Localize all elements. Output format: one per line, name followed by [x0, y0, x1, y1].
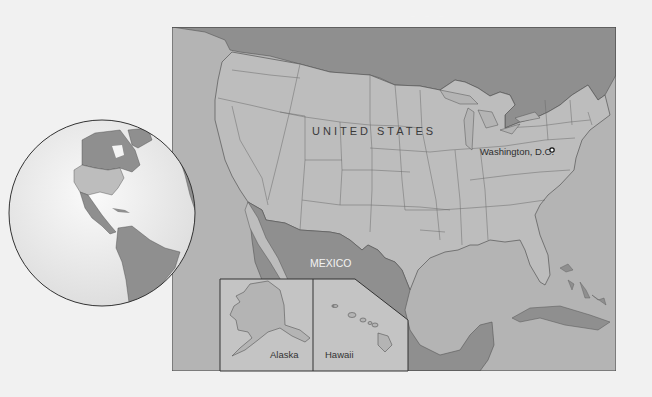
label-united-states: UNITED STATES: [312, 125, 436, 137]
label-alaska: Alaska: [270, 349, 299, 360]
label-hawaii: Hawaii: [325, 349, 354, 360]
locator-globe: [9, 120, 200, 312]
map-svg: [0, 0, 652, 397]
label-washington-dc: Washington, D.C.: [480, 146, 554, 157]
map-figure: CANADA UNITED STATES Washington, D.C. ME…: [0, 0, 652, 397]
label-canada: CANADA: [402, 10, 445, 21]
label-mexico: MEXICO: [310, 257, 351, 269]
